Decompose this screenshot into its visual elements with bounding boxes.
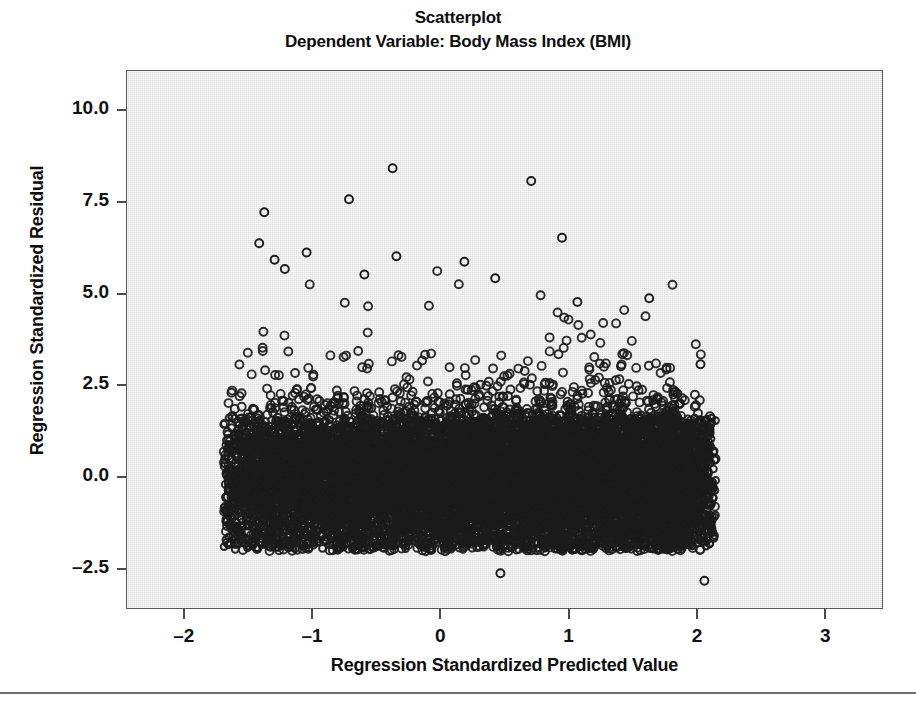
x-axis-title: Regression Standardized Predicted Value	[126, 655, 883, 676]
y-tick-label: 2.5	[1, 372, 109, 394]
plot-area	[126, 70, 883, 609]
chart-title-block: Scatterplot Dependent Variable: Body Mas…	[0, 6, 916, 54]
x-tick-label: –1	[272, 625, 352, 647]
page-title: Scatterplot	[0, 6, 916, 30]
x-tick-mark	[439, 609, 441, 619]
y-tick-mark	[117, 293, 126, 295]
x-tick-mark	[311, 609, 313, 619]
y-tick-mark	[117, 201, 126, 203]
x-tick-mark	[824, 609, 826, 619]
y-tick-label: 5.0	[1, 281, 109, 303]
y-tick-label: 0.0	[1, 464, 109, 486]
x-tick-label: 1	[529, 625, 609, 647]
x-tick-label: 3	[785, 625, 865, 647]
y-tick-label: –2.5	[1, 556, 109, 578]
y-tick-mark	[117, 568, 126, 570]
y-tick-label: 7.5	[1, 189, 109, 211]
y-tick-mark	[117, 476, 126, 478]
x-tick-label: –2	[144, 625, 224, 647]
chart-subtitle: Dependent Variable: Body Mass Index (BMI…	[0, 30, 916, 54]
x-tick-label: 2	[657, 625, 737, 647]
y-tick-mark	[117, 384, 126, 386]
x-tick-mark	[568, 609, 570, 619]
x-tick-mark	[183, 609, 185, 619]
x-tick-mark	[696, 609, 698, 619]
x-tick-label: 0	[400, 625, 480, 647]
footer-divider	[0, 692, 916, 694]
scatter-points-layer	[127, 71, 883, 609]
y-axis-title: Regression Standardized Residual	[27, 91, 48, 531]
y-tick-mark	[117, 109, 126, 111]
y-tick-label: 10.0	[1, 97, 109, 119]
